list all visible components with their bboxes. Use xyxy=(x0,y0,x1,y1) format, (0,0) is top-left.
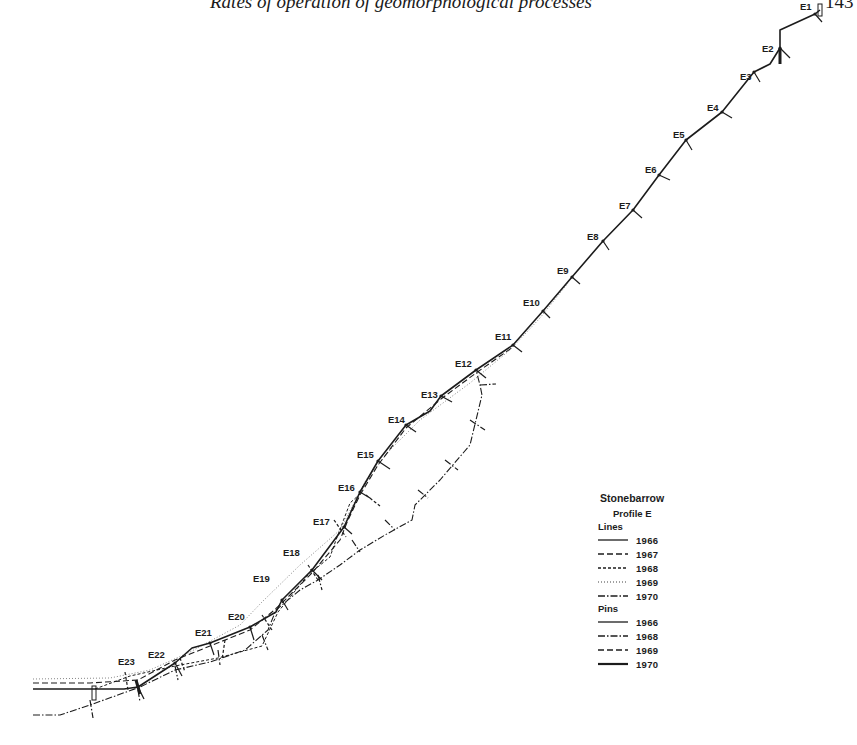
pin-mark-1966 xyxy=(754,72,760,82)
station-label-e4: E4 xyxy=(707,102,719,113)
station-point-e22 xyxy=(173,661,176,664)
legend-swatch-icon xyxy=(598,551,628,557)
station-point-e17 xyxy=(342,525,345,528)
legend-year-label: 1966 xyxy=(636,617,658,628)
pin-mark-1968 xyxy=(470,420,485,430)
station-point-e10 xyxy=(541,309,544,312)
pin-mark-1969 xyxy=(180,658,185,672)
legend-line-1968: 1968 xyxy=(598,561,664,575)
legend-swatch-icon xyxy=(598,537,628,543)
pin-mark-1968 xyxy=(352,540,360,552)
station-label-e8: E8 xyxy=(587,231,599,242)
legend-year-label: 1968 xyxy=(636,563,658,574)
legend: Stonebarrow Profile E Lines 196619671968… xyxy=(598,492,664,671)
legend-pin-1970: 1970 xyxy=(598,657,664,671)
station-label-e16: E16 xyxy=(338,482,355,493)
pin-mark-1968 xyxy=(262,635,268,650)
pin-mark-1966 xyxy=(633,210,642,218)
legend-title: Stonebarrow xyxy=(600,492,664,504)
station-labels: E1E2E3E4E5E6E7E8E9E10E11E12E13E14E15E16E… xyxy=(118,1,817,689)
pin-mark-1966 xyxy=(686,140,692,150)
legend-line-1967: 1967 xyxy=(598,547,664,561)
legend-year-label: 1968 xyxy=(636,631,658,642)
station-point-e11 xyxy=(511,343,514,346)
station-label-e6: E6 xyxy=(645,164,657,175)
legend-swatch-icon xyxy=(598,633,628,639)
station-label-e11: E11 xyxy=(495,331,512,342)
pin-mark-1969 xyxy=(366,495,380,506)
station-label-e10: E10 xyxy=(523,297,540,308)
profile-line-1969 xyxy=(33,283,568,679)
legend-pins-list: 1966196819691970 xyxy=(598,615,664,671)
legend-lines-list: 19661967196819691970 xyxy=(598,533,664,603)
station-label-e3: E3 xyxy=(740,71,752,82)
station-point-e7 xyxy=(631,208,634,211)
station-label-e5: E5 xyxy=(673,129,685,140)
station-label-e7: E7 xyxy=(619,200,631,211)
station-point-e9 xyxy=(570,275,573,278)
legend-line-1969: 1969 xyxy=(598,575,664,589)
legend-swatch-icon xyxy=(598,661,628,667)
station-point-e23 xyxy=(136,685,139,688)
station-point-e19 xyxy=(280,598,283,601)
pin-mark-1966 xyxy=(282,600,288,610)
e23-end-marker xyxy=(92,686,96,700)
legend-swatch-icon xyxy=(598,579,628,585)
legend-year-label: 1966 xyxy=(636,535,658,546)
pin-mark-1966 xyxy=(441,396,452,402)
legend-year-label: 1969 xyxy=(636,577,658,588)
station-point-e3 xyxy=(752,70,755,73)
station-point-e21 xyxy=(208,641,211,644)
legend-year-label: 1970 xyxy=(636,659,658,670)
pin-mark-1966 xyxy=(378,461,390,469)
profile-diagram: E1E2E3E4E5E6E7E8E9E10E11E12E13E14E15E16E… xyxy=(0,0,857,745)
station-point-e4 xyxy=(720,110,723,113)
pin-mark-1966 xyxy=(210,643,214,655)
legend-swatch-icon xyxy=(598,647,628,653)
station-label-e2: E2 xyxy=(762,43,774,54)
station-label-e13: E13 xyxy=(421,389,438,400)
station-point-e1 xyxy=(813,12,816,15)
legend-year-label: 1970 xyxy=(636,591,658,602)
legend-pin-1969: 1969 xyxy=(598,643,664,657)
station-point-e20 xyxy=(248,625,251,628)
station-label-e23: E23 xyxy=(118,656,135,667)
pin-mark-1968 xyxy=(90,700,93,718)
legend-year-label: 1967 xyxy=(636,549,658,560)
legend-swatch-icon xyxy=(598,565,628,571)
station-label-e9: E9 xyxy=(557,265,569,276)
profile-line-1970 xyxy=(33,370,482,715)
station-point-e15 xyxy=(376,459,379,462)
station-label-e22: E22 xyxy=(148,649,165,660)
station-label-e19: E19 xyxy=(253,573,270,584)
legend-line-1966: 1966 xyxy=(598,533,664,547)
station-point-e12 xyxy=(474,368,477,371)
station-point-e16 xyxy=(358,490,361,493)
station-point-e5 xyxy=(684,138,687,141)
pin-mark-1966 xyxy=(406,425,416,432)
legend-lines-heading: Lines xyxy=(598,521,664,532)
station-point-e8 xyxy=(601,239,604,242)
pin-mark-1966 xyxy=(360,492,370,498)
legend-line-1970: 1970 xyxy=(598,589,664,603)
station-point-e18 xyxy=(310,568,313,571)
station-point-e2 xyxy=(778,46,781,49)
pin-mark-1968 xyxy=(385,520,395,530)
station-point-e6 xyxy=(657,173,660,176)
station-label-e17: E17 xyxy=(313,516,330,527)
pin-mark-1966 xyxy=(722,112,732,118)
station-label-e18: E18 xyxy=(283,547,300,558)
legend-pins-heading: Pins xyxy=(598,603,664,614)
station-label-e21: E21 xyxy=(195,627,213,638)
station-label-e15: E15 xyxy=(357,449,375,460)
station-label-e20: E20 xyxy=(228,611,245,622)
profile-lines xyxy=(33,10,820,715)
legend-swatch-icon xyxy=(598,619,628,625)
legend-subtitle: Profile E xyxy=(613,508,664,519)
legend-pin-1966: 1966 xyxy=(598,615,664,629)
station-point-e13 xyxy=(439,394,442,397)
pin-mark-1966 xyxy=(659,175,670,180)
station-point-e14 xyxy=(404,423,407,426)
pin-mark-1966 xyxy=(513,345,522,352)
legend-swatch-icon xyxy=(598,593,628,599)
